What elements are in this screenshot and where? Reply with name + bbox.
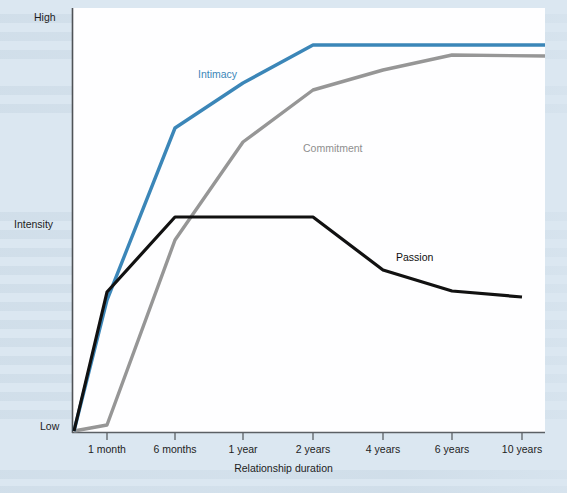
series-label-intimacy: Intimacy bbox=[198, 69, 237, 80]
x-tick-label-1-month: 1 month bbox=[88, 444, 126, 455]
y-axis-low-label: Low bbox=[40, 421, 59, 432]
x-tick-label-10-years: 10 years bbox=[502, 444, 542, 455]
x-tick-label-6-months: 6 months bbox=[153, 444, 196, 455]
series-label-commitment: Commitment bbox=[303, 143, 363, 154]
x-tick-label-4-years: 4 years bbox=[366, 444, 400, 455]
x-tick-label-2-years: 2 years bbox=[296, 444, 330, 455]
chart-figure: High Intensity Low 1 month 6 months 1 ye… bbox=[0, 0, 567, 493]
y-axis-title: Intensity bbox=[14, 219, 53, 230]
x-axis-ticks bbox=[107, 433, 522, 440]
series-label-passion: Passion bbox=[396, 252, 433, 263]
x-axis-title: Relationship duration bbox=[0, 463, 567, 474]
chart-canvas bbox=[0, 0, 567, 493]
series-line-passion bbox=[74, 217, 522, 431]
series-line-intimacy bbox=[74, 45, 545, 431]
x-tick-label-1-year: 1 year bbox=[228, 444, 257, 455]
y-axis-high-label: High bbox=[34, 12, 56, 23]
series-line-commitment bbox=[74, 55, 545, 431]
x-tick-label-6-years: 6 years bbox=[435, 444, 469, 455]
